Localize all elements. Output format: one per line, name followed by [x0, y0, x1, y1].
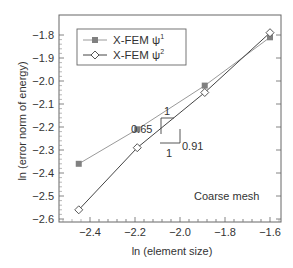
y-tick-label: −2.1: [32, 98, 54, 110]
y-tick-label: −1.8: [32, 29, 54, 41]
x-tick-label: −1.8: [214, 226, 236, 238]
x-tick-label: −1.6: [259, 226, 281, 238]
legend-square-marker-icon: [92, 37, 98, 43]
x-axis-label: ln (element size): [132, 245, 213, 257]
slope2-run-label: 1: [166, 147, 172, 159]
legend-label-psi1: X-FEM ψ1: [113, 33, 164, 46]
convergence-chart: −1.8−1.9−2.0−2.1−2.2−2.3−2.4−2.5−2.6 −2.…: [0, 0, 293, 268]
slope2-rise-label: 0.91: [182, 140, 203, 152]
slope1-run-label: 1: [164, 105, 170, 117]
slope1-rise-label: 0.65: [131, 123, 152, 135]
coarse-mesh-label: Coarse mesh: [194, 190, 259, 202]
y-tick-label: −2.5: [32, 190, 54, 202]
square-marker-icon: [202, 83, 208, 89]
y-tick-label: −2.6: [32, 213, 54, 225]
y-axis-label: ln (error norm of energy): [16, 61, 28, 180]
y-tick-label: −2.0: [32, 75, 54, 87]
x-tick-label: −2.4: [79, 226, 101, 238]
square-marker-icon: [76, 161, 82, 167]
legend: X-FEM ψ1 X-FEM ψ2: [77, 29, 186, 65]
slope-triangle-psi2: 0.91 1: [160, 129, 203, 159]
y-tick-label: −2.4: [32, 167, 54, 179]
legend-label-psi2: X-FEM ψ2: [113, 48, 164, 61]
y-tick-label: −2.3: [32, 144, 54, 156]
x-tick-label: −2.2: [124, 226, 146, 238]
y-tick-label: −2.2: [32, 121, 54, 133]
x-axis-ticks: −2.4−2.2−2.0−1.8−1.6: [63, 217, 281, 238]
y-tick-label: −1.9: [32, 52, 54, 64]
x-tick-label: −2.0: [169, 226, 191, 238]
